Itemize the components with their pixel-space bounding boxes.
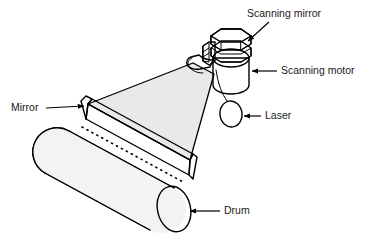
label-laser: Laser — [265, 109, 292, 121]
leader-mirror — [46, 106, 84, 108]
scanning-mirror-right-facet — [241, 36, 251, 50]
laser-diode — [218, 100, 243, 129]
mirror-left-tip — [81, 96, 92, 119]
label-scanning-mirror: Scanning mirror — [247, 7, 322, 19]
beam-fan-surface — [88, 63, 214, 160]
label-drum: Drum — [224, 204, 250, 216]
motor-body — [213, 58, 249, 94]
label-mirror: Mirror — [11, 101, 39, 113]
diagram-canvas: Scanning mirror Scanning motor Laser Mir… — [0, 0, 371, 241]
beam-window-ribs — [203, 48, 209, 57]
label-scanning-motor: Scanning motor — [281, 64, 355, 76]
leader-scanning-mirror — [248, 22, 269, 41]
laser-stem — [216, 70, 227, 101]
laser-scanner-diagram: Scanning mirror Scanning motor Laser Mir… — [0, 0, 371, 241]
scan-beam-fan — [88, 63, 214, 160]
laser-assembly — [216, 70, 244, 128]
scanning-mirror-left-facet — [211, 36, 221, 50]
